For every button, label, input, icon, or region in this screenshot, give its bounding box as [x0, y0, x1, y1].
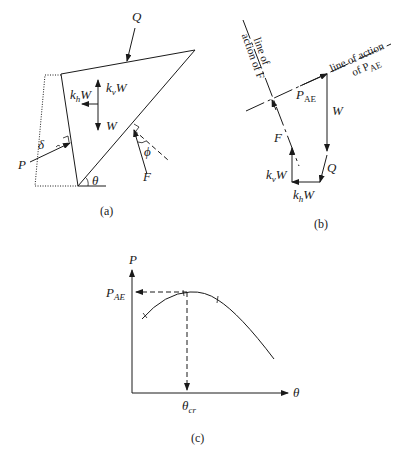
caption-b: (b) — [314, 218, 328, 230]
curve-tick-3 — [217, 296, 218, 303]
kv-W-b: W — [276, 167, 287, 182]
PAE-symbol-c: P — [106, 285, 114, 300]
wedge-outline — [61, 50, 195, 186]
label-x-axis-theta: θ — [293, 386, 299, 399]
right-angle-mark-plane — [134, 124, 139, 131]
normal-dashed-line — [134, 130, 168, 160]
label-khW-a: khW — [70, 88, 91, 104]
P-force-arrow — [30, 143, 70, 162]
label-theta-cr: θcr — [182, 399, 196, 415]
label-PAE-b: PAE — [296, 88, 316, 104]
PAE-subscript-c: AE — [114, 292, 125, 302]
label-F-a: F — [143, 170, 151, 183]
caption-a: (a) — [100, 205, 113, 217]
label-phi: ϕ — [144, 145, 151, 158]
Q-vector — [320, 155, 327, 182]
label-y-axis-P: P — [129, 253, 137, 266]
kv-W: W — [116, 80, 127, 95]
caption-c: (c) — [191, 432, 204, 444]
kh-W: W — [80, 87, 91, 102]
right-angle-mark-wall — [63, 136, 69, 142]
delta-angle-arc — [56, 145, 60, 147]
PAE-symbol: P — [296, 87, 304, 102]
P-theta-curve — [142, 292, 274, 359]
curve-tick-2 — [183, 290, 184, 296]
label-khW-b: khW — [293, 188, 314, 204]
kh-W-b: W — [303, 187, 314, 202]
label-F-b: F — [274, 131, 282, 144]
theta-cr-subscript: cr — [188, 405, 196, 415]
Q-force-arrow — [127, 28, 135, 61]
PAE-subscript: AE — [304, 94, 316, 104]
PAE-force-arrow — [300, 74, 327, 86]
label-PAE-c: PAE — [106, 286, 125, 302]
label-W-a: W — [106, 119, 117, 132]
label-Q-b: Q — [327, 161, 336, 174]
phi-angle-arc — [138, 141, 146, 143]
label-kvW-b: kvW — [266, 168, 287, 184]
theta-angle-arc — [85, 177, 88, 186]
label-P-a: P — [18, 158, 26, 171]
label-kvW-a: kvW — [106, 81, 127, 97]
label-theta-a: θ — [92, 174, 98, 187]
label-delta: δ — [38, 138, 44, 151]
label-W-b: W — [332, 104, 343, 117]
label-Q-a: Q — [132, 10, 141, 23]
